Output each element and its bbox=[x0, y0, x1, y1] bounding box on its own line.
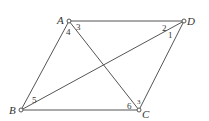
angle-3: 3 bbox=[76, 22, 81, 32]
segment-cd bbox=[139, 21, 184, 110]
point-d bbox=[182, 19, 186, 23]
geometry-diagram: A D B C 3 4 2 1 5 6 3 bbox=[0, 0, 209, 121]
angle-4: 4 bbox=[66, 27, 71, 37]
point-b bbox=[19, 108, 23, 112]
angle-c-top: 3 bbox=[137, 98, 141, 106]
angle-1: 1 bbox=[168, 30, 173, 40]
angle-5: 5 bbox=[32, 95, 37, 105]
point-a bbox=[67, 19, 71, 23]
label-b: B bbox=[9, 104, 16, 116]
label-a: A bbox=[56, 14, 64, 26]
label-d: D bbox=[186, 15, 195, 27]
angle-2: 2 bbox=[162, 23, 167, 33]
angle-6: 6 bbox=[127, 101, 132, 111]
segment-ac bbox=[69, 21, 139, 110]
point-c bbox=[137, 108, 141, 112]
label-c: C bbox=[142, 108, 150, 120]
